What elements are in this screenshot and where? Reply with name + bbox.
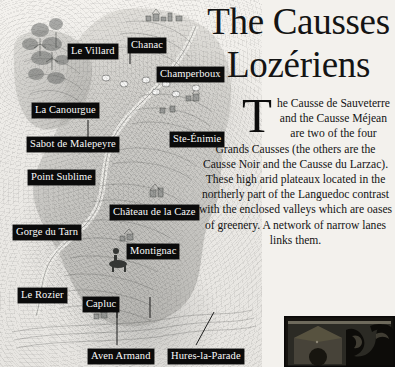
article-paragraph-2: These high arid plateaux located in the … [198,172,393,248]
map-label-le-villard[interactable]: Le Villard [68,44,118,59]
map-label-capluc[interactable]: Capluc [83,297,119,312]
article-paragraph-1-text: he Causse de Sauveterre and the Causse M… [203,97,390,171]
map-label-gorge-du-tarn[interactable]: Gorge du Tarn [13,225,81,240]
map-label-chanac[interactable]: Chanac [128,38,166,53]
map-label-le-rozier[interactable]: Le Rozier [18,288,67,303]
photo-image [284,316,395,367]
map-label-sabot-de-malepeyre[interactable]: Sabot de Malepeyre [27,137,119,152]
drop-cap: T [242,96,273,135]
article-column: The Causses Lozériens The Causse de Sauv… [196,0,395,367]
article-paragraph-1: The Causse de Sauveterre and the Causse … [198,96,393,172]
map-label-montignac[interactable]: Montignac [127,244,179,259]
page-title-line-1: The Causses [202,1,395,43]
map-label-la-canourgue[interactable]: La Canourgue [32,103,99,118]
inset-photograph [284,316,395,367]
article-body: The Causse de Sauveterre and the Causse … [198,96,393,248]
page-root: Le Villard Chanac Champerboux La Canourg… [0,0,395,367]
map-label-chateau-de-la-caze[interactable]: Château de la Caze [110,205,199,220]
map-label-point-sublime[interactable]: Point Sublime [28,170,95,185]
page-title-line-2: Lozériens [202,44,395,86]
photo-artwork [284,316,395,367]
map-label-aven-armand[interactable]: Aven Armand [88,349,154,364]
